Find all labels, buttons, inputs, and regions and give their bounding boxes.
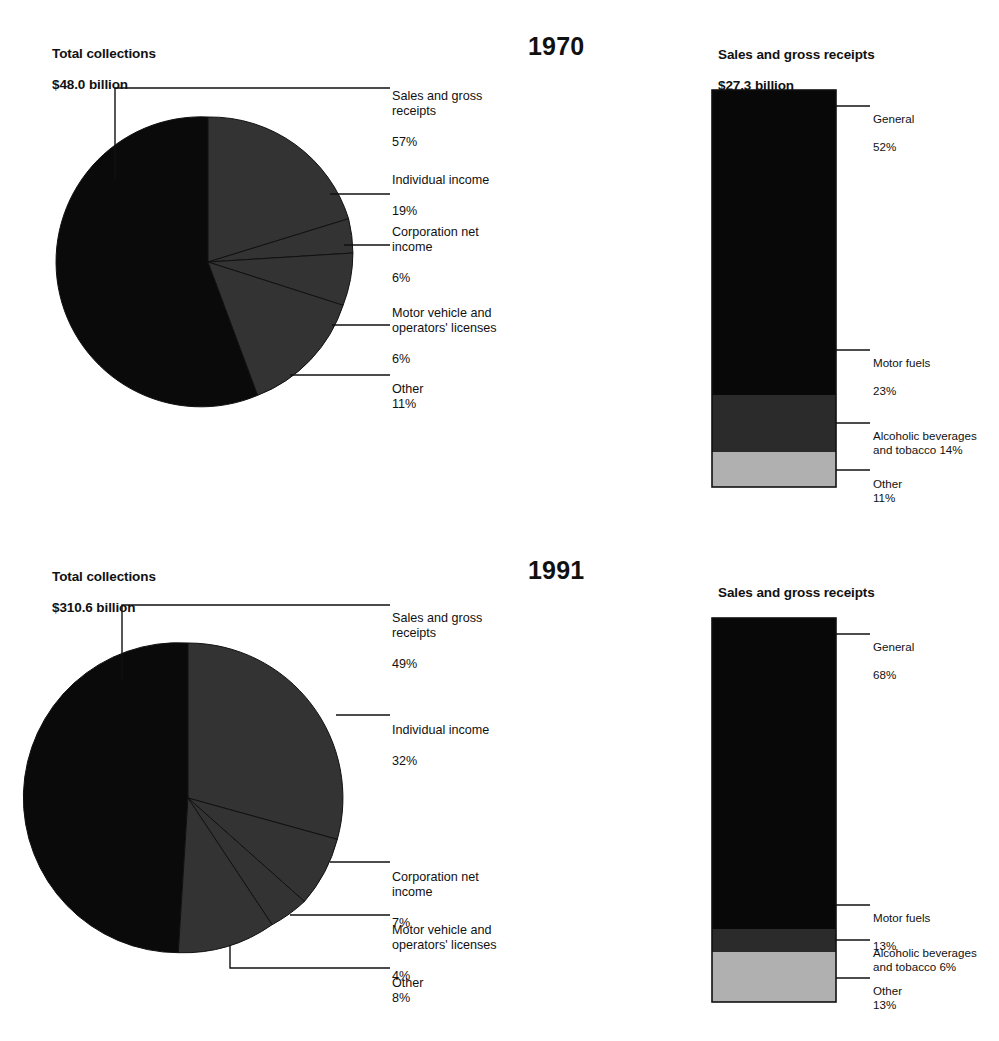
- bar-label-motor-fuels-value-1970: 23%: [873, 384, 896, 397]
- pie-chart-1991: [0, 590, 420, 970]
- pie-slices-1970: [56, 117, 353, 407]
- pie-header-line1-1991: Total collections: [52, 569, 156, 585]
- pie-chart-1970: [0, 70, 420, 440]
- bar-segment-other-1970[interactable]: [712, 452, 836, 487]
- bar-label-general-1991: General 68%: [873, 626, 999, 682]
- bar-leader-lines-1991: [836, 634, 870, 978]
- bar-segment-other-1991[interactable]: [712, 952, 836, 1002]
- pie-label-sales-name-1991: Sales and gross receipts: [392, 611, 482, 641]
- bar-label-alcohol-1970: Alcoholic beverages and tobacco 14%: [873, 415, 999, 457]
- bar-segment-alcohol-1991[interactable]: [712, 929, 836, 952]
- pie-label-sales-value-1991: 49%: [392, 657, 417, 671]
- leader-other-1991: [230, 945, 390, 968]
- bar-label-general-name-1970: General: [873, 112, 914, 125]
- bar-label-motor-fuels-1970: Motor fuels 23%: [873, 342, 999, 398]
- pie-label-other-name-1970: Other: [392, 382, 424, 396]
- pie-label-individual-1991: Individual income 32%: [392, 707, 572, 769]
- year-label-1970: 1970: [528, 32, 584, 61]
- year-label-1991: 1991: [528, 556, 584, 585]
- pie-label-sales-value-1970: 57%: [392, 135, 417, 149]
- bar-label-other-name-1991: Other: [873, 984, 902, 997]
- bar-header-line1-1970: Sales and gross receipts: [718, 47, 875, 63]
- pie-label-corporation-value-1970: 6%: [392, 271, 410, 285]
- bar-label-alcohol-1991: Alcoholic beverages and tobacco 6%: [873, 932, 999, 974]
- pie-label-other-1970: Other 11%: [392, 366, 582, 413]
- pie-label-individual-name-1991: Individual income: [392, 723, 489, 737]
- pie-label-motor-vehicle-name-1970: Motor vehicle and operators' licenses: [392, 306, 497, 336]
- pie-label-individual-value-1991: 32%: [392, 754, 417, 768]
- bar-label-general-value-1991: 68%: [873, 668, 896, 681]
- bar-segment-general-1970[interactable]: [712, 90, 836, 296]
- bar-label-motor-fuels-name-1991: Motor fuels: [873, 911, 930, 924]
- bar-label-other-value-1991: 13%: [873, 998, 896, 1011]
- pie-label-other-1991: Other 8%: [392, 960, 582, 1007]
- pie-header-line1-1970: Total collections: [52, 46, 156, 62]
- pie-label-motor-vehicle-name-1991: Motor vehicle and operators' licenses: [392, 923, 497, 953]
- pie-slices-1991: [23, 643, 343, 953]
- bar-label-general-name-1991: General: [873, 640, 914, 653]
- pie-label-sales-name-1970: Sales and gross receipts: [392, 89, 482, 119]
- bar-segment-motor-fuels-1991[interactable]: [712, 879, 836, 929]
- bar-label-general-1970: General 52%: [873, 98, 999, 154]
- bar-label-alcohol-value-1970: 14%: [939, 443, 962, 456]
- bar-segments-1991: [712, 618, 836, 1002]
- pie-label-sales-1991: Sales and gross receipts 49%: [392, 595, 572, 673]
- bar-label-other-1991: Other 13%: [873, 970, 999, 1012]
- bar-segments-1970: [712, 90, 836, 487]
- pie-label-individual-name-1970: Individual income: [392, 173, 489, 187]
- bar-segment-motor-fuels-1970[interactable]: [712, 296, 836, 395]
- bar-leader-lines-1970: [836, 106, 870, 470]
- bar-segment-general-1991[interactable]: [712, 618, 836, 879]
- pie-slice-sales-1991[interactable]: [23, 643, 188, 953]
- bar-label-motor-fuels-name-1970: Motor fuels: [873, 356, 930, 369]
- pie-label-other-name-1991: Other: [392, 976, 424, 990]
- pie-label-corporation-1970: Corporation net income 6%: [392, 209, 572, 287]
- pie-label-other-value-1991: 8%: [392, 991, 410, 1005]
- pie-label-motor-vehicle-1970: Motor vehicle and operators' licenses 6%: [392, 290, 582, 368]
- pie-label-motor-vehicle-value-1970: 6%: [392, 352, 410, 366]
- bar-label-general-value-1970: 52%: [873, 140, 896, 153]
- pie-label-corporation-name-1970: Corporation net income: [392, 225, 479, 255]
- pie-label-corporation-name-1991: Corporation net income: [392, 870, 479, 900]
- pie-label-sales-1970: Sales and gross receipts 57%: [392, 73, 572, 151]
- pie-label-other-value-1970: 11%: [392, 397, 416, 411]
- bar-label-alcohol-name-1991: Alcoholic beverages and tobacco: [873, 946, 977, 973]
- bar-segment-alcohol-1970[interactable]: [712, 395, 836, 452]
- bar-header-line1-1991: Sales and gross receipts: [718, 585, 875, 601]
- bar-label-other-name-1970: Other: [873, 477, 902, 490]
- bar-label-other-1970: Other 11%: [873, 463, 999, 505]
- bar-label-other-value-1970: 11%: [873, 491, 895, 504]
